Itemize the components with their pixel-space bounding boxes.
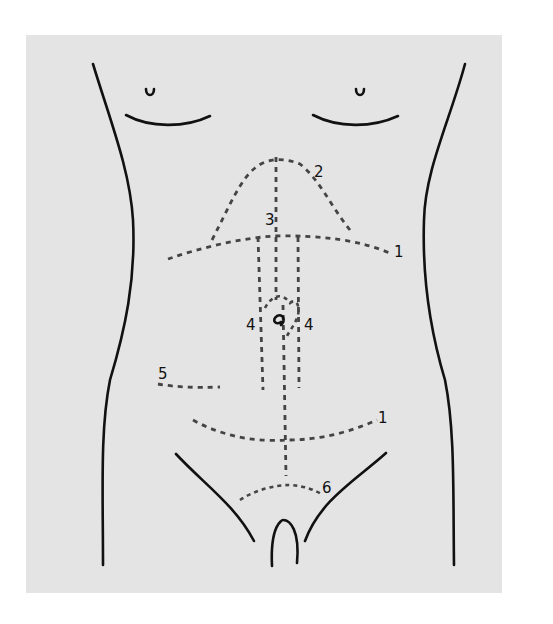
torso-incision-diagram: 1 2 3 4 4 5 1 6 — [0, 0, 553, 624]
right-inguinal-line — [305, 453, 386, 541]
right-nipple-icon — [356, 89, 364, 95]
left-nipple-icon — [146, 89, 154, 95]
label-1-upper: 1 — [394, 243, 404, 261]
label-4-right: 4 — [304, 316, 314, 334]
umbilicus-icon — [274, 315, 283, 325]
incision-4-left-paramedian — [258, 237, 263, 390]
incision-6-pfannenstiel — [240, 485, 323, 500]
torso-left-side-outline — [93, 64, 133, 565]
incision-5-short-transverse — [158, 384, 220, 387]
label-1-lower: 1 — [378, 409, 388, 427]
incision-midline-lower — [283, 305, 286, 476]
label-5: 5 — [158, 365, 168, 383]
label-6: 6 — [322, 479, 332, 497]
torso-right-side-outline — [424, 64, 465, 565]
genital-outline — [272, 520, 298, 566]
incision-2-rooftop — [212, 160, 350, 240]
label-3: 3 — [265, 211, 275, 229]
incision-1-upper-transverse — [168, 236, 392, 259]
label-4-left: 4 — [246, 316, 256, 334]
label-2: 2 — [314, 163, 324, 181]
right-chest-fold — [313, 115, 398, 125]
left-chest-fold — [126, 115, 210, 125]
